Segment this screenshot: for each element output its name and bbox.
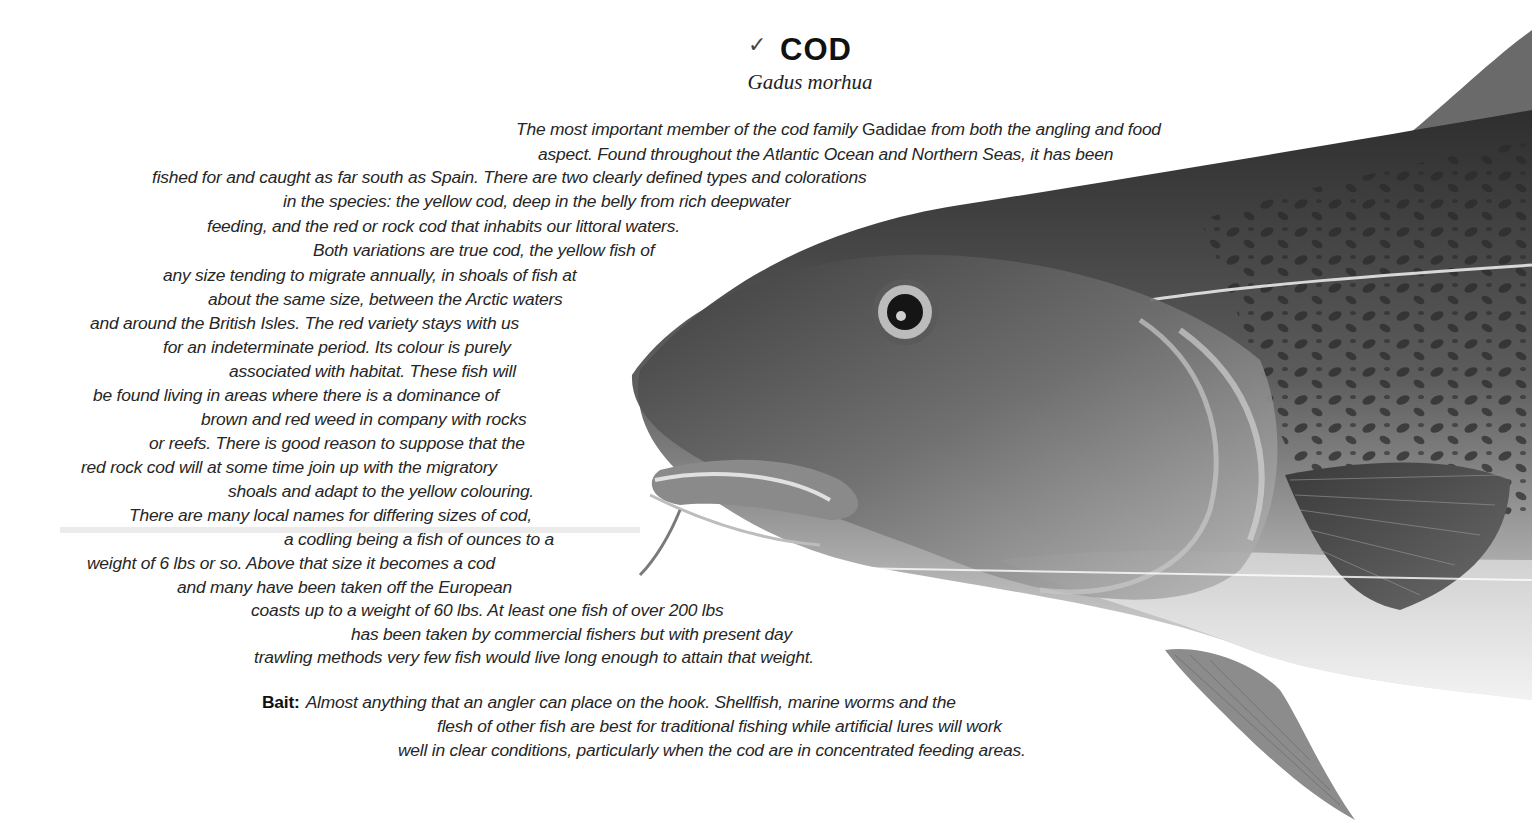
bait-line: flesh of other fish are best for traditi… [437, 716, 1002, 737]
description-line: in the species: the yellow cod, deep in … [283, 191, 790, 212]
description-line: associated with habitat. These fish will [229, 361, 516, 382]
description-line: be found living in areas where there is … [93, 385, 499, 406]
description-line: and many have been taken off the Europea… [177, 577, 512, 598]
description-line: feeding, and the red or rock cod that in… [207, 216, 680, 237]
description-line: weight of 6 lbs or so. Above that size i… [87, 553, 495, 574]
description-line: has been taken by commercial fishers but… [351, 624, 792, 645]
description-line: The most important member of the cod fam… [516, 119, 1161, 140]
bait-line: Bait:Almost anything that an angler can … [262, 692, 956, 713]
description-line: shoals and adapt to the yellow colouring… [228, 481, 534, 502]
family-name: Gadidae [862, 119, 926, 139]
description-line: any size tending to migrate annually, in… [163, 265, 576, 286]
description-line: aspect. Found throughout the Atlantic Oc… [538, 144, 1113, 165]
description-line: and around the British Isles. The red va… [90, 313, 519, 334]
description-line: brown and red weed in company with rocks [201, 409, 527, 430]
species-title: COD [780, 32, 852, 68]
check-mark-icon: ✓ [748, 32, 766, 57]
description-line: or reefs. There is good reason to suppos… [149, 433, 525, 454]
description-line: for an indeterminate period. Its colour … [163, 337, 511, 358]
description-line: trawling methods very few fish would liv… [254, 647, 814, 668]
description-line: about the same size, between the Arctic … [208, 289, 563, 310]
bait-line: well in clear conditions, particularly w… [398, 740, 1026, 761]
bait-label: Bait: [262, 692, 300, 712]
species-header: ✓ COD Gadus morhua [700, 30, 920, 70]
description-line: There are many local names for differing… [129, 505, 532, 526]
description-line: Both variations are true cod, the yellow… [313, 240, 654, 261]
description-line: a codling being a fish of ounces to a [284, 529, 554, 550]
description-line: coasts up to a weight of 60 lbs. At leas… [251, 600, 723, 621]
latin-name: Gadus morhua [700, 70, 920, 95]
description-line: red rock cod will at some time join up w… [81, 457, 497, 478]
description-line: fished for and caught as far south as Sp… [152, 167, 867, 188]
